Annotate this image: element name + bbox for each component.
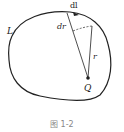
diagram-canvas [0,0,124,132]
diagram-figure: L dl dr r Q 图 1-2 [0,0,124,132]
radius-line-r [88,26,92,78]
radius-line-start [67,13,88,78]
label-dl: dl [70,2,78,10]
label-r: r [93,53,97,61]
figure-caption: 图 1-2 [50,121,74,129]
label-Q: Q [84,84,91,93]
dashed-arc-dr [73,26,92,31]
label-dr: dr [57,23,66,31]
charge-point-Q [86,76,90,80]
label-L: L [7,27,13,36]
